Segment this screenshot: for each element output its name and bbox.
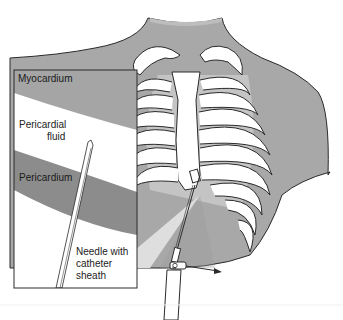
- label-pericardium: Pericardium: [19, 172, 72, 184]
- label-needle-line1: Needle with: [76, 246, 128, 258]
- label-pericardial-fluid-line1: Pericardial: [19, 119, 66, 131]
- label-needle-line3: sheath: [76, 270, 106, 282]
- pericardiocentesis-diagram: Myocardium Pericardial fluid Pericardium…: [0, 0, 343, 320]
- inset-magnified-view: [0, 0, 343, 320]
- label-needle-line2: catheter: [76, 258, 112, 270]
- label-pericardial-fluid-line2: fluid: [47, 131, 65, 143]
- label-myocardium: Myocardium: [18, 73, 72, 85]
